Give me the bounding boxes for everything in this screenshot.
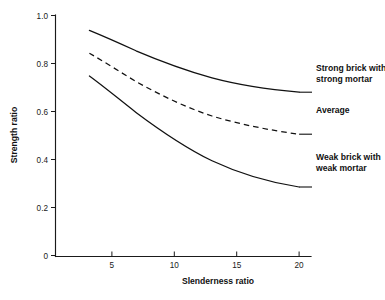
y-tick-label-0.2: 0.2: [37, 204, 49, 213]
y-tick-label-0.4: 0.4: [37, 156, 49, 165]
series-label-average-line1: Average: [316, 105, 350, 115]
series-label-weak-line1: Weak brick with: [316, 152, 381, 162]
series-label-strong-line2: strong mortar: [316, 74, 373, 84]
x-tick-label-5: 5: [110, 261, 115, 270]
figure-container: 1.0 0.8 0.6 0.4 0.2 0 Strength ratio 5 1…: [0, 0, 385, 300]
strength-ratio-vs-slenderness-ratio-chart: 1.0 0.8 0.6 0.4 0.2 0 Strength ratio 5 1…: [0, 0, 385, 300]
x-axis-title: Slenderness ratio: [182, 276, 254, 286]
y-axis-title: Strength ratio: [9, 107, 19, 163]
x-tick-label-15: 15: [232, 261, 242, 270]
x-tick-label-20: 20: [295, 261, 305, 270]
y-tick-label-0.8: 0.8: [37, 60, 49, 69]
y-tick-label-0.6: 0.6: [37, 108, 49, 117]
y-tick-label-1.0: 1.0: [37, 12, 49, 21]
series-label-strong-line1: Strong brick with: [316, 63, 385, 73]
x-tick-label-10: 10: [170, 261, 180, 270]
y-tick-label-0: 0: [43, 252, 48, 261]
series-label-weak-line2: weak mortar: [315, 163, 367, 173]
